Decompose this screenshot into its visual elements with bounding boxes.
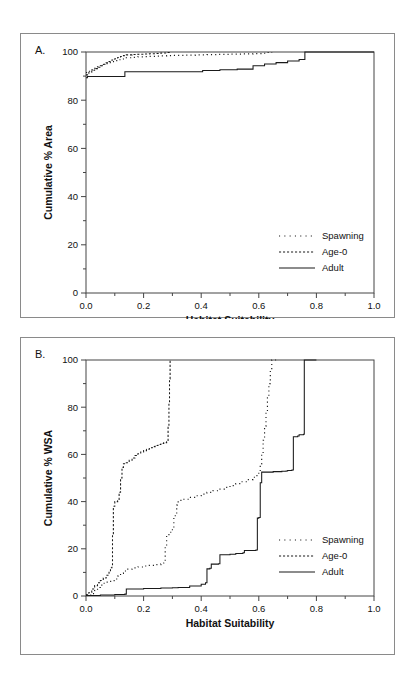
- y-tick-label: 0: [73, 287, 78, 298]
- x-tick-label: 0.4: [195, 603, 208, 614]
- x-axis-title: Habitat Suitability: [186, 617, 275, 629]
- legend-label-adult: Adult: [322, 262, 344, 273]
- series-line-adult: [86, 52, 374, 78]
- y-tick-label: 80: [67, 402, 78, 413]
- y-tick-label: 60: [67, 143, 78, 154]
- x-tick-label: 0.2: [137, 603, 150, 614]
- x-tick-label: 0.8: [310, 603, 323, 614]
- y-tick-label: 40: [67, 191, 78, 202]
- x-tick-label: 0.6: [252, 603, 265, 614]
- x-tick-label: 1.0: [367, 300, 380, 311]
- chart-panel-b: B. 0204060801000.00.20.40.60.81.0Habitat…: [20, 337, 395, 655]
- series-line-spawning: [86, 360, 276, 595]
- x-tick-label: 0.8: [310, 300, 323, 311]
- figure-container: A. 0204060801000.00.20.40.60.81.0Habitat…: [0, 0, 417, 676]
- x-axis-title: Habitat Suitability: [186, 314, 275, 319]
- y-tick-label: 100: [62, 46, 78, 57]
- y-axis-title: Cumulative % Area: [42, 125, 54, 220]
- y-tick-label: 0: [73, 590, 78, 601]
- x-tick-label: 0.6: [252, 300, 265, 311]
- legend-label-spawning: Spawning: [322, 534, 364, 545]
- series-line-adult: [86, 360, 316, 596]
- y-tick-label: 80: [67, 95, 78, 106]
- y-tick-label: 20: [67, 239, 78, 250]
- x-tick-label: 0.0: [79, 603, 92, 614]
- legend-label-adult: Adult: [322, 566, 344, 577]
- x-tick-label: 0.2: [137, 300, 150, 311]
- x-tick-label: 0.0: [79, 300, 92, 311]
- legend-label-spawning: Spawning: [322, 230, 364, 241]
- x-tick-label: 1.0: [367, 603, 380, 614]
- panel-b-plot: 0204060801000.00.20.40.60.81.0Habitat Su…: [21, 338, 396, 656]
- series-line-age-0: [86, 360, 170, 595]
- legend-label-age-0: Age-0: [322, 246, 347, 257]
- y-tick-label: 100: [62, 354, 78, 365]
- y-tick-label: 60: [67, 449, 78, 460]
- y-tick-label: 20: [67, 543, 78, 554]
- y-tick-label: 40: [67, 496, 78, 507]
- chart-panel-a: A. 0204060801000.00.20.40.60.81.0Habitat…: [20, 33, 395, 318]
- y-axis-title: Cumulative % WSA: [42, 429, 54, 526]
- x-tick-label: 0.4: [195, 300, 208, 311]
- legend-label-age-0: Age-0: [322, 550, 347, 561]
- panel-a-plot: 0204060801000.00.20.40.60.81.0Habitat Su…: [21, 34, 396, 319]
